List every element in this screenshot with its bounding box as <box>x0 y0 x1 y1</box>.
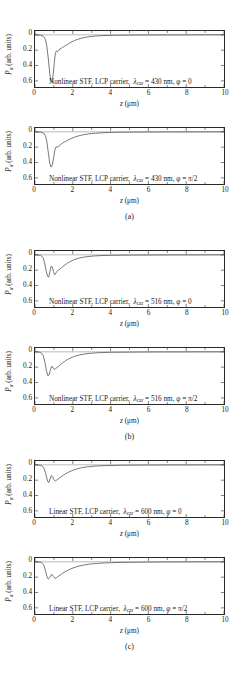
x-tick-label: 8 <box>185 520 189 527</box>
y-tick-label: 0.6 <box>23 395 32 402</box>
x-axis-label: z (μm) <box>34 197 225 205</box>
plot-panel: Pα (arb. units)00.20.40.6Nonlinear STF, … <box>0 28 235 102</box>
x-tick-label: 2 <box>70 407 74 414</box>
plot-area: Linear STF, LCP carrier, λcar = 600 nm, … <box>34 460 225 518</box>
y-tick-labels: 00.20.40.6 <box>13 28 32 90</box>
panel-annotation: Nonlinear STF, LCP carrier, λcar = 430 n… <box>49 79 192 86</box>
y-tick-label: 0.6 <box>23 175 32 182</box>
x-axis-label: z (μm) <box>34 530 225 538</box>
x-tick-label: 10 <box>221 187 228 194</box>
x-tick-label: 6 <box>147 520 151 527</box>
plot-panel: Pα (arb. units)00.20.40.6Linear STF, LCP… <box>0 458 235 532</box>
y-tick-label: 0.4 <box>23 62 32 69</box>
y-tick-label: 0.2 <box>23 143 32 150</box>
data-curve <box>35 132 224 167</box>
x-tick-label: 0 <box>32 310 36 317</box>
data-curve <box>35 465 224 483</box>
plot-panel: Pα (arb. units)00.20.40.6Nonlinear STF, … <box>0 345 235 419</box>
x-tick-label: 4 <box>109 407 113 414</box>
plot-area: Nonlinear STF, LCP carrier, λcar = 430 n… <box>34 127 225 185</box>
y-tick-labels: 00.20.40.6 <box>13 458 32 520</box>
panel-annotation: Nonlinear STF, LCP carrier, λcar = 516 n… <box>49 299 192 306</box>
x-axis-label: z (μm) <box>34 100 225 108</box>
y-tick-label: 0 <box>28 557 32 564</box>
y-tick-label: 0.4 <box>23 159 32 166</box>
plot-panel: Pα (arb. units)00.20.40.6Linear STF, LCP… <box>0 555 235 629</box>
y-tick-label: 0.6 <box>23 605 32 612</box>
x-tick-label: 4 <box>109 90 113 97</box>
y-tick-label: 0.2 <box>23 46 32 53</box>
data-curve <box>35 352 224 376</box>
y-tick-label: 0.4 <box>23 379 32 386</box>
x-tick-label: 0 <box>32 617 36 624</box>
plot-area: Linear STF, LCP carrier, λcar = 600 nm, … <box>34 557 225 615</box>
x-tick-label: 4 <box>109 310 113 317</box>
group-caption: (a) <box>34 213 225 221</box>
figure-root: Pα (arb. units)00.20.40.6Nonlinear STF, … <box>0 0 235 693</box>
x-tick-label: 6 <box>147 310 151 317</box>
y-tick-label: 0.2 <box>23 573 32 580</box>
x-tick-label: 10 <box>221 90 228 97</box>
x-tick-label: 10 <box>221 407 228 414</box>
x-tick-label: 4 <box>109 617 113 624</box>
y-tick-label: 0.2 <box>23 266 32 273</box>
x-axis-label: z (μm) <box>34 417 225 425</box>
x-tick-label: 4 <box>109 187 113 194</box>
y-tick-label: 0.4 <box>23 282 32 289</box>
panel-annotation: Nonlinear STF, LCP carrier, λcar = 516 n… <box>49 396 197 403</box>
x-tick-label: 6 <box>147 187 151 194</box>
data-curve <box>35 255 224 277</box>
x-tick-label: 0 <box>32 90 36 97</box>
y-tick-labels: 00.20.40.6 <box>13 555 32 617</box>
x-tick-label: 10 <box>221 617 228 624</box>
x-axis-label: z (μm) <box>34 627 225 635</box>
x-tick-label: 0 <box>32 187 36 194</box>
panel-annotation: Nonlinear STF, LCP carrier, λcar = 430 n… <box>49 176 197 183</box>
group-caption: (b) <box>34 433 225 441</box>
y-tick-label: 0.2 <box>23 476 32 483</box>
x-tick-label: 10 <box>221 310 228 317</box>
y-tick-label: 0 <box>28 347 32 354</box>
y-tick-label: 0.2 <box>23 363 32 370</box>
y-tick-labels: 00.20.40.6 <box>13 248 32 310</box>
y-tick-label: 0.6 <box>23 78 32 85</box>
plot-panel: Pα (arb. units)00.20.40.6Nonlinear STF, … <box>0 248 235 322</box>
x-tick-label: 0 <box>32 407 36 414</box>
x-tick-label: 8 <box>185 187 189 194</box>
x-tick-label: 10 <box>221 520 228 527</box>
x-tick-label: 2 <box>70 520 74 527</box>
x-tick-label: 2 <box>70 310 74 317</box>
y-tick-label: 0 <box>28 127 32 134</box>
x-tick-label: 6 <box>147 617 151 624</box>
x-tick-label: 2 <box>70 187 74 194</box>
x-tick-label: 6 <box>147 90 151 97</box>
y-tick-label: 0 <box>28 460 32 467</box>
y-tick-labels: 00.20.40.6 <box>13 125 32 187</box>
x-tick-label: 8 <box>185 407 189 414</box>
x-tick-label: 2 <box>70 617 74 624</box>
x-tick-label: 8 <box>185 310 189 317</box>
x-tick-label: 8 <box>185 90 189 97</box>
y-tick-label: 0.6 <box>23 298 32 305</box>
x-axis-label: z (μm) <box>34 320 225 328</box>
y-tick-label: 0.4 <box>23 589 32 596</box>
x-tick-label: 4 <box>109 520 113 527</box>
data-curve <box>35 35 224 83</box>
x-tick-label: 8 <box>185 617 189 624</box>
y-tick-labels: 00.20.40.6 <box>13 345 32 407</box>
plot-area: Nonlinear STF, LCP carrier, λcar = 430 n… <box>34 30 225 88</box>
y-tick-label: 0 <box>28 30 32 37</box>
data-curve <box>35 562 224 579</box>
y-tick-label: 0 <box>28 250 32 257</box>
panel-annotation: Linear STF, LCP carrier, λcar = 600 nm, … <box>49 509 182 516</box>
x-tick-label: 0 <box>32 520 36 527</box>
panel-annotation: Linear STF, LCP carrier, λcar = 600 nm, … <box>49 606 187 613</box>
plot-area: Nonlinear STF, LCP carrier, λcar = 516 n… <box>34 250 225 308</box>
x-tick-label: 2 <box>70 90 74 97</box>
x-tick-label: 6 <box>147 407 151 414</box>
group-caption: (c) <box>34 643 225 651</box>
plot-panel: Pα (arb. units)00.20.40.6Nonlinear STF, … <box>0 125 235 199</box>
y-tick-label: 0.6 <box>23 508 32 515</box>
plot-area: Nonlinear STF, LCP carrier, λcar = 516 n… <box>34 347 225 405</box>
y-tick-label: 0.4 <box>23 492 32 499</box>
